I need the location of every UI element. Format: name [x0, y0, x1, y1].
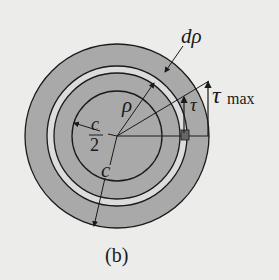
figure-caption: (b): [105, 244, 128, 267]
rho-label: ρ: [121, 93, 132, 117]
tau-max-label: τ: [212, 82, 222, 108]
torsion-cross-section-diagram: dρ ρ τ τ max c 2 c (b): [0, 0, 279, 280]
c-label: c: [101, 158, 111, 182]
tau-max-subscript: max: [227, 90, 255, 107]
tau-label: τ: [190, 94, 198, 115]
c-half-denominator: 2: [90, 135, 99, 155]
area-element-da: [181, 130, 189, 140]
d-rho-label: dρ: [181, 24, 202, 48]
c-half-numerator: c: [91, 114, 99, 134]
